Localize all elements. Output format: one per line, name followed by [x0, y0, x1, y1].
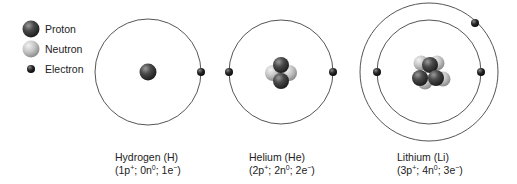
nucleus — [265, 57, 297, 89]
electron — [197, 68, 205, 76]
electron — [373, 68, 381, 76]
atom-name: Helium (He) — [249, 151, 315, 164]
electron — [225, 68, 233, 76]
atom-lithium — [360, 3, 498, 141]
caption-lithium: Lithium (Li) (3p+; 4n0; 3e−) — [397, 151, 463, 177]
atom-hydrogen — [95, 19, 205, 125]
proton — [273, 57, 289, 73]
atom-composition: (2p+; 2n0; 2e−) — [249, 164, 315, 177]
atom-helium — [225, 20, 337, 124]
atom-name: Hydrogen (H) — [115, 151, 181, 164]
proton — [412, 70, 428, 86]
atom-composition: (3p+; 4n0; 3e−) — [397, 164, 463, 177]
proton — [273, 73, 289, 89]
caption-helium: Helium (He) (2p+; 2n0; 2e−) — [249, 151, 315, 177]
atom-name: Lithium (Li) — [397, 151, 463, 164]
electron — [471, 19, 479, 27]
atom-composition: (1p+; 0n0; 1e−) — [115, 164, 181, 177]
nucleus-proton — [140, 64, 157, 81]
nucleus — [412, 56, 451, 90]
proton — [428, 70, 444, 86]
caption-hydrogen: Hydrogen (H) (1p+; 0n0; 1e−) — [115, 151, 181, 177]
electron — [477, 68, 485, 76]
electron — [329, 68, 337, 76]
